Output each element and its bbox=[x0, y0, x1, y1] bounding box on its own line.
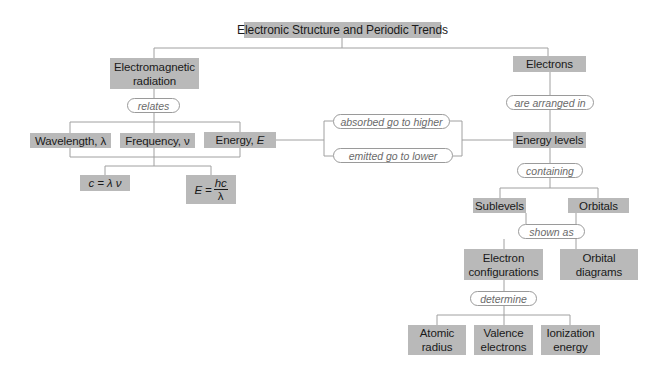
title-node: Electronic Structure and Periodic Trends bbox=[244, 22, 441, 38]
node-em-radiation: Electromagnetic radiation bbox=[110, 58, 199, 89]
e-eq-fraction: hc λ bbox=[214, 177, 228, 202]
e-eq-den: λ bbox=[218, 190, 224, 202]
energy-label: Energy, bbox=[216, 133, 254, 147]
link-determine: determine bbox=[470, 291, 537, 306]
node-frequency: Frequency, ν bbox=[120, 133, 195, 148]
node-electrons: Electrons bbox=[513, 56, 586, 72]
link-shown-as: shown as bbox=[518, 224, 585, 239]
link-arranged: are arranged in bbox=[506, 95, 594, 110]
node-atomic-radius: Atomic radius bbox=[408, 325, 466, 355]
link-containing: containing bbox=[517, 163, 583, 178]
energy-var: E bbox=[257, 133, 265, 147]
node-wavelength: Wavelength, λ bbox=[30, 133, 111, 148]
node-energy-levels: Energy levels bbox=[513, 132, 586, 148]
node-orbitals: Orbitals bbox=[568, 198, 629, 213]
e-eq-lhs: E = bbox=[194, 183, 211, 197]
node-energy: Energy, E bbox=[204, 132, 276, 148]
node-orbital-diagrams: Orbital diagrams bbox=[560, 249, 638, 280]
node-ionization-energy: Ionization energy bbox=[541, 325, 600, 355]
node-e-equation: E = hc λ bbox=[186, 175, 236, 204]
node-electron-configurations: Electron configurations bbox=[464, 249, 543, 280]
node-sublevels: Sublevels bbox=[473, 198, 526, 213]
link-relates: relates bbox=[127, 98, 180, 113]
node-c-equation: c = λ ν bbox=[80, 175, 130, 191]
link-emitted: emitted go to lower bbox=[333, 148, 453, 163]
e-eq-num: hc bbox=[214, 177, 228, 190]
node-valence-electrons: Valence electrons bbox=[474, 325, 533, 355]
link-absorbed: absorbed go to higher bbox=[333, 114, 450, 129]
